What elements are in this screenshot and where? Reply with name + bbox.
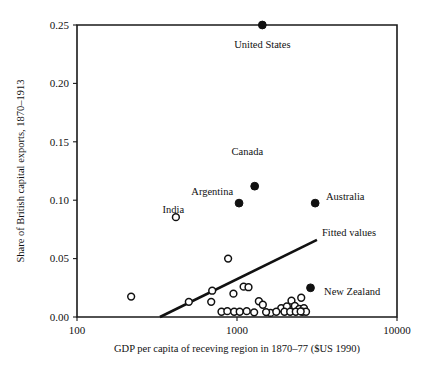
data-point-open: [297, 308, 304, 315]
data-point-open: [298, 294, 305, 301]
data-point-open: [185, 298, 192, 305]
annotation-label: New Zealand: [324, 286, 381, 297]
data-point-filled: [251, 182, 259, 190]
data-point-filled: [307, 284, 315, 292]
annotation-label: Argentina: [191, 186, 233, 197]
data-point-open: [243, 308, 250, 315]
point-annotations: United StatesCanadaArgentinaAustraliaInd…: [163, 39, 382, 297]
annotation-label: Canada: [232, 146, 264, 157]
data-point-open: [230, 290, 237, 297]
annotation-label: Fitted values: [322, 227, 376, 238]
data-point-open: [209, 287, 216, 294]
scatter-plot-svg: 0.000.050.100.150.200.25100100010000 Uni…: [0, 0, 429, 366]
y-tick-label: 0.25: [50, 19, 70, 31]
y-tick-label: 0.20: [50, 77, 70, 89]
y-axis-title: Share of British capital exports, 1870–1…: [15, 79, 26, 262]
open-circle-markers: [128, 214, 310, 317]
y-tick-label: 0.15: [50, 136, 70, 148]
data-point-open: [224, 308, 231, 315]
data-point-filled: [258, 21, 266, 29]
x-tick-label: 100: [69, 324, 86, 336]
data-point-open: [208, 298, 215, 305]
data-point-open: [263, 309, 270, 316]
annotation-label: India: [163, 204, 185, 215]
data-point-open: [251, 309, 258, 316]
x-tick-label: 1000: [226, 324, 249, 336]
plot-axes: [77, 25, 397, 317]
y-tick-label: 0.05: [50, 252, 70, 264]
y-tick-label: 0.10: [50, 194, 70, 206]
x-axis-title: GDP per capita of receving region in 187…: [114, 343, 361, 355]
data-point-open: [273, 308, 280, 315]
data-point-open: [245, 284, 252, 291]
annotation-label: United States: [234, 39, 290, 50]
annotation-label: Australia: [326, 191, 365, 202]
data-point-open: [236, 308, 243, 315]
data-point-open: [128, 293, 135, 300]
data-point-open: [259, 301, 266, 308]
data-point-filled: [311, 199, 319, 207]
y-tick-label: 0.00: [50, 311, 70, 323]
chart-figure: 0.000.050.100.150.200.25100100010000 Uni…: [0, 0, 429, 366]
x-tick-label: 10000: [383, 324, 411, 336]
data-point-filled: [235, 199, 243, 207]
axis-ticks: [73, 25, 397, 321]
data-point-open: [225, 255, 232, 262]
plot-frame: [77, 25, 397, 317]
